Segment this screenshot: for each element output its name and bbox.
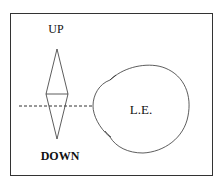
eye-notch-top [110, 75, 116, 80]
label-down: DOWN [41, 149, 80, 163]
lens-diamond [46, 49, 68, 139]
diagram-canvas: UP L.E. DOWN [0, 0, 223, 183]
eye-notch-bottom [105, 131, 111, 137]
label-eye: L.E. [130, 102, 152, 117]
label-up: UP [48, 22, 64, 36]
